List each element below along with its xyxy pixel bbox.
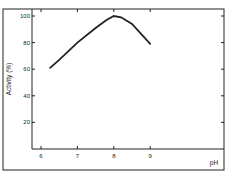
y-tick-label: 60 [23, 66, 30, 72]
y-axis-label: Activity (%) [5, 63, 13, 96]
x-tick-label: 6 [39, 153, 43, 159]
x-axis-label: pH [210, 159, 219, 167]
x-tick-label: 7 [76, 153, 80, 159]
chart: 20406080100 6789 Activity (%) pH [0, 0, 226, 173]
y-tick-label: 20 [23, 119, 30, 125]
activity-curve [50, 16, 150, 68]
outer-frame [3, 9, 224, 170]
y-tick-label: 40 [23, 93, 30, 99]
y-tick-label: 80 [23, 40, 30, 46]
x-tick-label: 9 [149, 153, 153, 159]
plot-area: 20406080100 6789 [20, 9, 224, 159]
y-tick-label: 100 [20, 13, 31, 19]
x-tick-label: 8 [112, 153, 116, 159]
y-ticks: 20406080100 [20, 13, 224, 125]
x-ticks: 6789 [39, 9, 152, 159]
